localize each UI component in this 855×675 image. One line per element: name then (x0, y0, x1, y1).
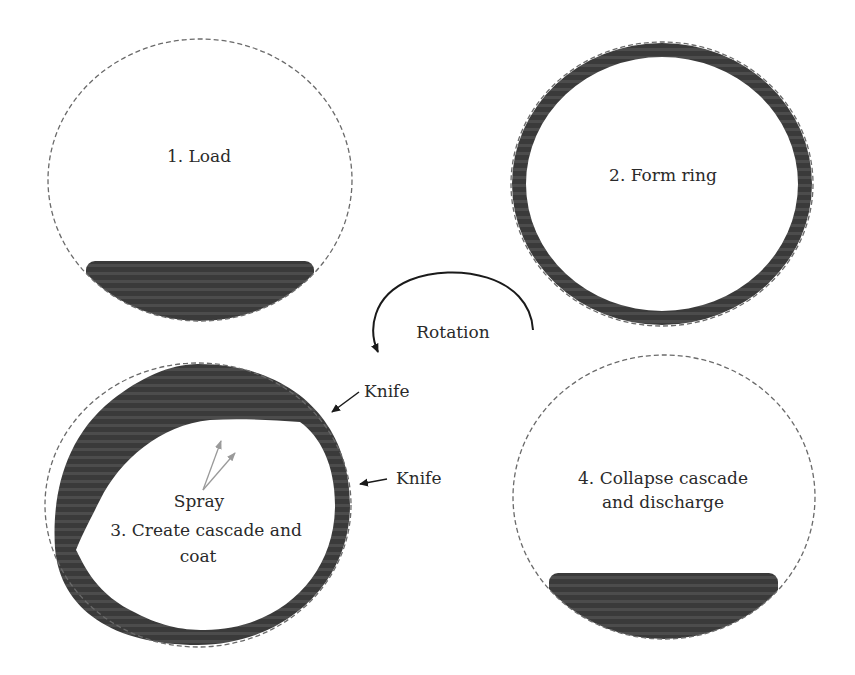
material-bed (549, 573, 778, 648)
knife-upper: Knife (332, 381, 409, 412)
knife-lower: Knife (360, 468, 441, 488)
material-bed (86, 261, 314, 331)
rotation-label: Rotation (416, 322, 490, 342)
stage-2-form-ring: 2. Form ring (511, 42, 813, 326)
knife-arrow-icon (332, 392, 359, 412)
stage-4-discharge: 4. Collapse cascade and discharge (513, 355, 815, 648)
stage-3-label-line2: coat (180, 546, 217, 566)
stage-1-load: 1. Load (48, 39, 352, 331)
drum-coating-diagram: 1. Load 2. Form ring Rotation Spray 3. C… (0, 0, 855, 675)
spray-label: Spray (174, 491, 225, 511)
stage-2-label: 2. Form ring (609, 165, 717, 185)
stage-4-label-line1: 4. Collapse cascade (578, 468, 748, 488)
knife-label-lower: Knife (396, 468, 441, 488)
stage-4-label-line2: and discharge (602, 492, 724, 512)
rotation-indicator: Rotation (373, 272, 533, 352)
stage-1-label: 1. Load (167, 146, 231, 166)
spray-arrows (203, 441, 235, 490)
stage-3-label-line1: 3. Create cascade and (110, 520, 302, 540)
knife-arrow-icon (360, 479, 387, 484)
stage-3-cascade: Spray 3. Create cascade and coat (45, 363, 351, 647)
knife-label-upper: Knife (364, 381, 409, 401)
